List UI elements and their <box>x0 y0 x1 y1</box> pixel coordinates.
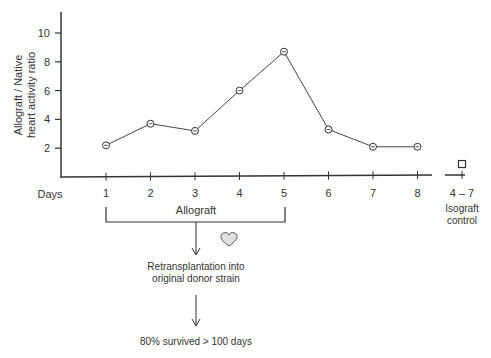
y-tick-label: 10 <box>38 27 50 39</box>
control-name-line: Isograft <box>445 203 479 214</box>
x-tick-label: 8 <box>414 187 420 199</box>
x-tick-label: 3 <box>192 187 198 199</box>
y-tick-label: 6 <box>44 85 50 97</box>
retransplant-text-line1: Retransplantation into <box>147 261 245 272</box>
x-tick-label: 1 <box>103 187 109 199</box>
axes <box>61 12 465 178</box>
x-axis <box>61 175 432 177</box>
chart: 246810 12345678 Days Allograft / Native … <box>0 0 491 358</box>
down-arrow-2 <box>192 295 200 326</box>
bracket-label: Allograft <box>176 204 216 216</box>
y-tick-label: 4 <box>44 113 50 125</box>
x-tick-label: 4 <box>236 187 242 199</box>
control-tick-label: 4 – 7 <box>450 187 474 199</box>
heart-icon <box>221 233 237 246</box>
x-tick-label: 6 <box>325 187 331 199</box>
retransplant-text-line2: original donor strain <box>152 273 240 284</box>
x-tick-label: 2 <box>147 187 153 199</box>
series-allograft <box>103 48 422 150</box>
y-tick-label: 8 <box>44 56 50 68</box>
y-axis-label-line1: Allograft / Native <box>12 55 24 136</box>
isograft-control: 4 – 7Isograftcontrol <box>445 161 479 226</box>
survival-text: 80% survived > 100 days <box>140 336 252 347</box>
control-name-line: control <box>447 215 477 226</box>
y-axis-label-line2: heart activity ratio <box>25 52 37 138</box>
x-tick-label: 7 <box>370 187 376 199</box>
x-tick-label: 5 <box>281 187 287 199</box>
series-line <box>106 52 418 147</box>
control-marker <box>459 161 466 168</box>
x-axis-label: Days <box>37 188 63 200</box>
y-tick-label: 2 <box>44 142 50 154</box>
y-ticks: 246810 <box>38 27 61 154</box>
